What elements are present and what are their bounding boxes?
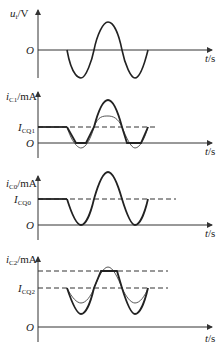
x-axis-label: t/s [205,227,215,239]
panel-ui: ui/V O t/s [10,7,215,78]
origin-label: O [26,137,34,149]
waveform-diagram: ui/V O t/s iC1/mA ICQ1 O t/s iC0/mA ICQ0… [0,0,222,346]
ideal-sine [67,267,148,303]
distorted-output [67,271,148,314]
x-axis-label: t/s [205,332,215,344]
y-axis-label: iC2/mA [6,253,37,267]
y-axis-label: iC0/mA [6,177,37,191]
panel-ic0: iC0/mA ICQ0 O t/s [6,172,215,240]
panel-ic1: iC1/mA ICQ1 O t/s [6,90,215,158]
y-axis-label: ui/V [10,7,29,21]
y-axis-label: iC1/mA [6,90,37,104]
panel-ic2: iC2/mA ICQ2 O t/s [6,253,215,344]
quiescent-label: ICQ0 [13,193,31,207]
origin-label: O [26,44,34,56]
origin-label: O [26,321,34,333]
origin-label: O [26,219,34,231]
x-axis-label: t/s [205,145,215,157]
distorted-output [67,100,148,143]
quiescent-label: ICQ2 [17,282,35,296]
x-axis-label: t/s [205,52,215,64]
quiescent-label: ICQ1 [17,121,35,135]
